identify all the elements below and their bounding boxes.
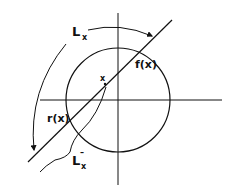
- arrow-left: [33, 44, 66, 150]
- label-Lx: L: [72, 24, 80, 39]
- label-point-x: x: [100, 74, 106, 83]
- point-x-dot: [104, 83, 106, 85]
- label-fx: f(x): [135, 58, 157, 71]
- label-Lx-bar-sub: x: [81, 162, 87, 171]
- label-Lx-sub: x: [82, 33, 88, 42]
- label-rx: r(x): [47, 112, 70, 125]
- label-Lx-bar-sup: –: [80, 148, 84, 157]
- arrow-top: [88, 27, 152, 36]
- diagram-canvas: L x f(x) r(x) x L – x: [0, 0, 232, 193]
